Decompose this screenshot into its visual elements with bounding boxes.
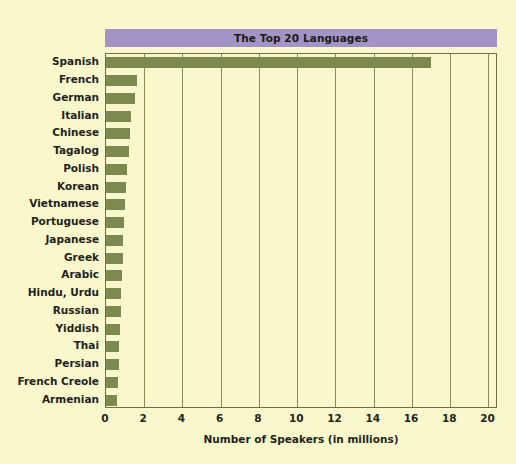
category-label: Italian	[0, 110, 99, 121]
bar-row	[106, 111, 496, 122]
bar-vietnamese	[106, 199, 125, 210]
x-tick-label: 14	[365, 412, 380, 424]
x-tick-label: 6	[216, 412, 223, 424]
category-label: Korean	[0, 181, 99, 192]
bar-chart: The Top 20 Languages SpanishFrenchGerman…	[0, 0, 516, 464]
bar-japanese	[106, 235, 123, 246]
category-label: Polish	[0, 163, 99, 174]
bar-row	[106, 324, 496, 335]
bar-row	[106, 146, 496, 157]
bar-row	[106, 164, 496, 175]
bar-row	[106, 253, 496, 264]
bar-arabic	[106, 270, 122, 281]
bar-row	[106, 359, 496, 370]
category-label: Tagalog	[0, 145, 99, 156]
x-tick-label: 16	[404, 412, 419, 424]
category-label: Japanese	[0, 234, 99, 245]
bar-row	[106, 93, 496, 104]
bar-row	[106, 377, 496, 388]
category-label: Armenian	[0, 394, 99, 405]
bar-italian	[106, 111, 131, 122]
x-tick-label: 10	[289, 412, 304, 424]
bar-german	[106, 93, 135, 104]
bar-hindu-urdu	[106, 288, 121, 299]
bar-armenian	[106, 395, 117, 406]
category-label: Arabic	[0, 269, 99, 280]
x-tick-label: 12	[327, 412, 342, 424]
category-label: German	[0, 92, 99, 103]
category-axis-labels: SpanishFrenchGermanItalianChineseTagalog…	[0, 53, 99, 408]
bar-row	[106, 235, 496, 246]
bar-row	[106, 306, 496, 317]
bar-french-creole	[106, 377, 118, 388]
category-label: Hindu, Urdu	[0, 287, 99, 298]
bar-russian	[106, 306, 121, 317]
bar-tagalog	[106, 146, 129, 157]
bar-polish	[106, 164, 127, 175]
bar-row	[106, 128, 496, 139]
x-tick-label: 8	[254, 412, 261, 424]
bar-chinese	[106, 128, 130, 139]
category-label: Thai	[0, 340, 99, 351]
bar-spanish	[106, 57, 431, 68]
bar-thai	[106, 341, 119, 352]
bar-persian	[106, 359, 119, 370]
x-tick-label: 18	[442, 412, 457, 424]
bar-greek	[106, 253, 123, 264]
bar-korean	[106, 182, 126, 193]
bar-row	[106, 270, 496, 281]
category-label: French	[0, 74, 99, 85]
category-label: Persian	[0, 358, 99, 369]
x-tick-label: 20	[480, 412, 495, 424]
x-tick-label: 2	[140, 412, 147, 424]
bar-yiddish	[106, 324, 120, 335]
bar-row	[106, 288, 496, 299]
chart-title-banner: The Top 20 Languages	[105, 29, 497, 47]
category-label: Spanish	[0, 56, 99, 67]
x-tick-label: 4	[178, 412, 185, 424]
category-label: Portuguese	[0, 216, 99, 227]
x-axis-title: Number of Speakers (in millions)	[105, 433, 497, 445]
plot-area	[105, 53, 497, 408]
bar-row	[106, 217, 496, 228]
bar-row	[106, 182, 496, 193]
bar-row	[106, 75, 496, 86]
x-tick-label: 0	[101, 412, 108, 424]
category-label: Greek	[0, 252, 99, 263]
category-label: Russian	[0, 305, 99, 316]
bars-container	[106, 54, 496, 407]
bar-portuguese	[106, 217, 124, 228]
bar-row	[106, 341, 496, 352]
category-label: Yiddish	[0, 323, 99, 334]
bar-row	[106, 395, 496, 406]
category-label: French Creole	[0, 376, 99, 387]
value-axis-tick-labels: 02468101214161820	[105, 412, 497, 428]
bar-french	[106, 75, 137, 86]
bar-row	[106, 57, 496, 68]
chart-title: The Top 20 Languages	[234, 32, 368, 44]
category-label: Vietnamese	[0, 198, 99, 209]
category-label: Chinese	[0, 127, 99, 138]
bar-row	[106, 199, 496, 210]
